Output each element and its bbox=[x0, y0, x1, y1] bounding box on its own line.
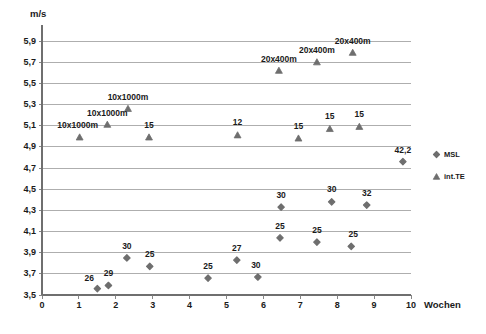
data-point-msl bbox=[255, 274, 261, 280]
data-point-label: 29 bbox=[78, 268, 138, 278]
x-axis-tick-label: 4 bbox=[176, 300, 204, 310]
y-axis-tick-label: 5,7 bbox=[6, 57, 36, 67]
x-axis-tick-label: 2 bbox=[102, 300, 130, 310]
data-point-label: 20x400m bbox=[287, 45, 347, 55]
legend-item-int-te[interactable]: int.TE bbox=[432, 172, 465, 181]
scatter-chart: 3,53,73,94,14,34,54,74,95,15,35,55,75,90… bbox=[0, 0, 486, 334]
data-point-label: 10x1000m bbox=[77, 108, 137, 118]
x-axis-tick-label: 7 bbox=[286, 300, 314, 310]
legend-item-msl[interactable]: MSL bbox=[432, 150, 460, 159]
data-point-label: 20x400m bbox=[323, 36, 383, 46]
data-point-msl bbox=[278, 204, 284, 210]
y-axis-tick-label: 3,9 bbox=[6, 247, 36, 257]
legend-label: int.TE bbox=[444, 173, 465, 181]
data-point-msl bbox=[147, 263, 153, 269]
data-point-int-te bbox=[275, 67, 282, 73]
triangle-icon bbox=[432, 172, 441, 181]
y-axis-tick-label: 5,5 bbox=[6, 78, 36, 88]
data-point-msl bbox=[328, 199, 334, 205]
y-axis-tick-label: 5,1 bbox=[6, 120, 36, 130]
data-point-msl bbox=[348, 243, 354, 249]
data-point-msl bbox=[94, 285, 100, 291]
data-point-label: 10x1000m bbox=[48, 120, 108, 130]
y-axis-title: m/s bbox=[30, 8, 46, 19]
data-point-int-te bbox=[76, 134, 83, 140]
diamond-icon bbox=[432, 150, 441, 159]
x-axis-tick-label: 3 bbox=[139, 300, 167, 310]
y-axis-tick-label: 5,9 bbox=[6, 36, 36, 46]
data-point-label: 15 bbox=[268, 121, 328, 131]
x-axis-tick-label: 6 bbox=[249, 300, 277, 310]
data-point-label: 27 bbox=[207, 243, 267, 253]
data-point-label: 42,2 bbox=[373, 145, 433, 155]
data-point-label: 30 bbox=[226, 260, 286, 270]
data-point-label: 10x1000m bbox=[98, 92, 158, 102]
y-axis-tick-label: 5,3 bbox=[6, 99, 36, 109]
data-point-label: 32 bbox=[337, 188, 397, 198]
data-point-int-te bbox=[295, 135, 302, 141]
data-point-label: 25 bbox=[120, 249, 180, 259]
data-point-msl bbox=[277, 235, 283, 241]
x-axis-tick-label: 8 bbox=[323, 300, 351, 310]
legend-label: MSL bbox=[444, 151, 460, 159]
data-point-int-te bbox=[356, 123, 363, 129]
plot-area bbox=[0, 0, 486, 334]
data-point-msl bbox=[105, 282, 111, 288]
y-axis-tick-label: 3,7 bbox=[6, 268, 36, 278]
y-axis-tick-label: 4,1 bbox=[6, 226, 36, 236]
x-axis-tick-label: 9 bbox=[360, 300, 388, 310]
y-axis-tick-label: 3,5 bbox=[6, 290, 36, 300]
data-point-int-te bbox=[349, 49, 356, 55]
x-axis-tick-label: 0 bbox=[28, 300, 56, 310]
data-point-msl bbox=[364, 202, 370, 208]
data-point-label: 25 bbox=[323, 229, 383, 239]
data-point-int-te bbox=[234, 132, 241, 138]
y-axis-tick-label: 4,9 bbox=[6, 141, 36, 151]
data-point-msl bbox=[205, 275, 211, 281]
data-point-label: 15 bbox=[119, 120, 179, 130]
x-axis-tick-label: 1 bbox=[65, 300, 93, 310]
y-axis-tick-label: 4,5 bbox=[6, 184, 36, 194]
x-axis-tick-label: 10 bbox=[397, 300, 425, 310]
y-axis-tick-label: 4,7 bbox=[6, 163, 36, 173]
data-point-label: 15 bbox=[329, 109, 389, 119]
data-point-msl bbox=[314, 239, 320, 245]
y-axis-tick-label: 4,3 bbox=[6, 205, 36, 215]
x-axis-tick-label: 5 bbox=[213, 300, 241, 310]
data-point-label: 12 bbox=[208, 117, 268, 127]
x-axis-title: Wochen bbox=[424, 299, 461, 310]
data-point-int-te bbox=[146, 134, 153, 140]
data-point-msl bbox=[400, 158, 406, 164]
